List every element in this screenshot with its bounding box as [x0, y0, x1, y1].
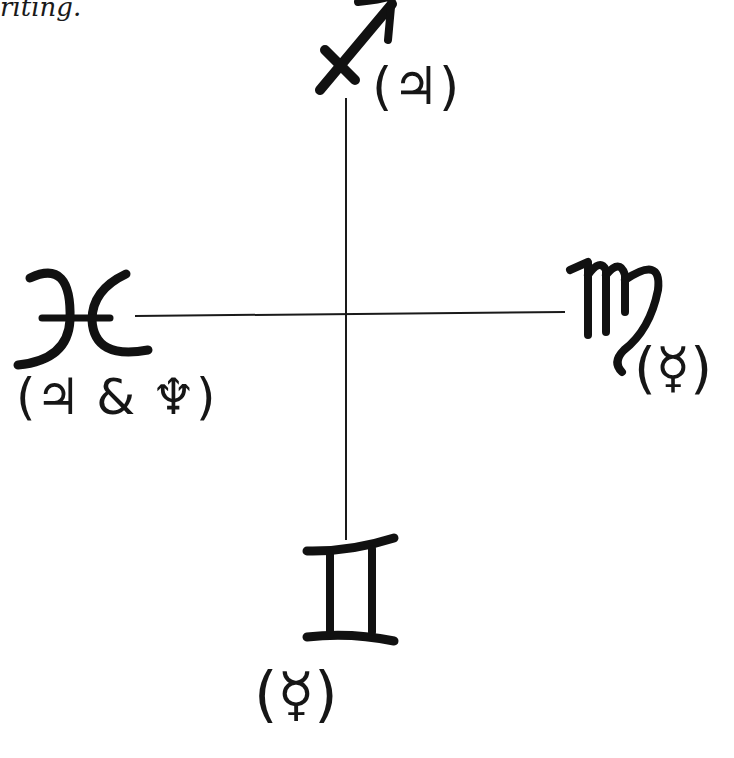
- pisces-rulers-label: (♃ & ♆): [16, 372, 215, 422]
- pisces-glyph-icon: [18, 273, 148, 365]
- horizontal-axis-line: [135, 312, 565, 316]
- virgo-rulers-label: (☿): [634, 340, 712, 396]
- sagittarius-rulers-label: (♃): [372, 60, 459, 112]
- gemini-glyph-icon: [307, 538, 394, 641]
- gemini-rulers-label: (☿): [254, 664, 338, 724]
